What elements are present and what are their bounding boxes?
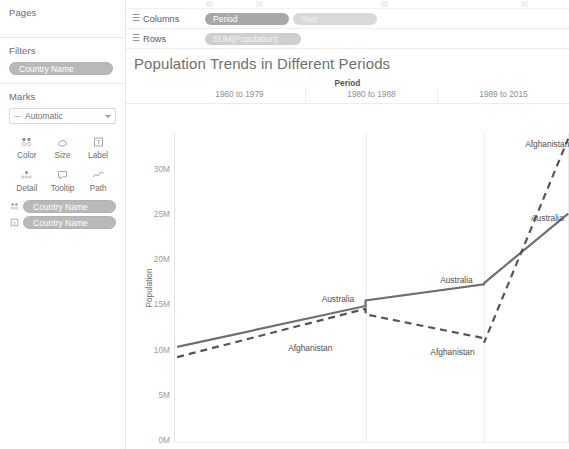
label-icon-small: T	[9, 218, 20, 227]
pages-shelf[interactable]: Pages	[0, 0, 125, 38]
marks-button-tooltip-label: Tooltip	[51, 184, 75, 193]
line-australia[interactable]	[177, 214, 568, 347]
path-icon	[91, 167, 106, 182]
marks-button-color-label: Color	[17, 151, 37, 160]
marks-pill-color-row: Country Name	[9, 200, 116, 213]
mark-type-dropdown[interactable]: ∼ Automatic	[9, 108, 116, 124]
marks-button-color[interactable]: Color	[9, 131, 45, 164]
marks-pill-label-row: T Country Name	[9, 216, 116, 229]
marks-buttons: Color Size T	[9, 131, 116, 197]
detail-icon	[19, 167, 34, 182]
plot-area: Population 30M 25M 20M 15M 10M 5M 0M	[126, 133, 569, 443]
marks-button-label-label: Label	[88, 151, 108, 160]
line-label-afghanistan-p1: Afghanistan	[288, 343, 332, 353]
columns-pill-period[interactable]: Period	[205, 13, 289, 25]
marks-button-size[interactable]: Size	[45, 131, 81, 164]
label-icon: T	[91, 134, 106, 149]
worksheet-main: ☰ Columns Period Year ☰ Rows SUM(Populat…	[126, 0, 569, 449]
line-label-australia-p3: Australia	[531, 213, 564, 223]
tableau-worksheet: Pages Filters Country Name Marks ∼ Autom…	[0, 0, 569, 449]
marks-button-detail[interactable]: Detail	[9, 164, 45, 197]
y-tick-25m: 25M	[154, 209, 170, 219]
visualization-area[interactable]: Population Trends in Different Periods P…	[126, 47, 569, 449]
y-tick-30m: 30M	[154, 164, 170, 174]
line-label-afghanistan-p3: Afghanistan	[525, 139, 569, 149]
y-axis-ticks: 30M 25M 20M 15M 10M 5M 0M	[140, 133, 172, 443]
period-header-1[interactable]: 1960 to 1979	[174, 89, 305, 102]
y-tick-0m: 0M	[158, 435, 170, 445]
line-label-australia-p2: Australia	[440, 275, 473, 285]
marks-button-tooltip[interactable]: Tooltip	[45, 164, 81, 197]
y-tick-15m: 15M	[154, 299, 170, 309]
marks-button-label[interactable]: T Label	[80, 131, 116, 164]
marks-pill-country-name-color[interactable]: Country Name	[23, 200, 116, 213]
marks-card: Marks ∼ Automatic Color	[0, 84, 125, 237]
svg-text:T: T	[13, 221, 16, 226]
tooltip-icon	[55, 167, 70, 182]
filters-title: Filters	[9, 45, 116, 56]
toolbar-cutoff	[126, 0, 569, 9]
marks-button-path[interactable]: Path	[80, 164, 116, 197]
marks-button-detail-label: Detail	[16, 184, 37, 193]
marks-button-path-label: Path	[90, 184, 107, 193]
columns-shelf[interactable]: ☰ Columns Period Year	[126, 9, 569, 29]
y-tick-5m: 5M	[158, 390, 170, 400]
period-header-cells: 1960 to 1979 1980 to 1988 1989 to 2015	[174, 89, 569, 102]
line-series-group	[174, 133, 569, 443]
marks-pill-country-name-label[interactable]: Country Name	[23, 216, 116, 229]
marks-title: Marks	[9, 91, 116, 102]
y-tick-20m: 20M	[154, 254, 170, 264]
line-afghanistan[interactable]	[177, 139, 568, 358]
period-header-2[interactable]: 1980 to 1988	[305, 89, 437, 102]
rows-shelf[interactable]: ☰ Rows SUM(Population)	[126, 29, 569, 49]
pages-title: Pages	[9, 7, 116, 18]
chevron-down-icon	[105, 115, 111, 118]
chart-title: Population Trends in Different Periods	[126, 47, 569, 76]
period-header-3[interactable]: 1989 to 2015	[437, 89, 569, 102]
columns-icon: ☰	[132, 14, 143, 23]
panel-container: Australia Afghanistan Australia Afghanis…	[174, 133, 569, 443]
mark-type-icon: ∼	[14, 112, 21, 121]
rows-icon: ☰	[132, 34, 143, 43]
left-sidebar: Pages Filters Country Name Marks ∼ Autom…	[0, 0, 126, 449]
columns-pill-year[interactable]: Year	[293, 13, 377, 25]
period-field-label: Period	[126, 78, 569, 88]
color-icon-small	[9, 202, 20, 211]
filters-shelf[interactable]: Filters Country Name	[0, 38, 125, 84]
rows-shelf-label: Rows	[143, 34, 205, 44]
size-icon	[55, 134, 70, 149]
mark-type-value: Automatic	[25, 111, 105, 121]
filter-pill-country-name[interactable]: Country Name	[9, 62, 113, 75]
line-label-australia-p1: Australia	[322, 294, 355, 304]
line-label-afghanistan-p2: Afghanistan	[430, 347, 474, 357]
column-header-band: Period 1960 to 1979 1980 to 1988 1989 to…	[126, 78, 569, 104]
color-icon	[19, 134, 34, 149]
y-tick-10m: 10M	[154, 345, 170, 355]
columns-shelf-label: Columns	[143, 14, 205, 24]
marks-button-size-label: Size	[55, 151, 71, 160]
rows-pill-sum-population[interactable]: SUM(Population)	[205, 33, 301, 45]
svg-text:T: T	[96, 139, 100, 145]
